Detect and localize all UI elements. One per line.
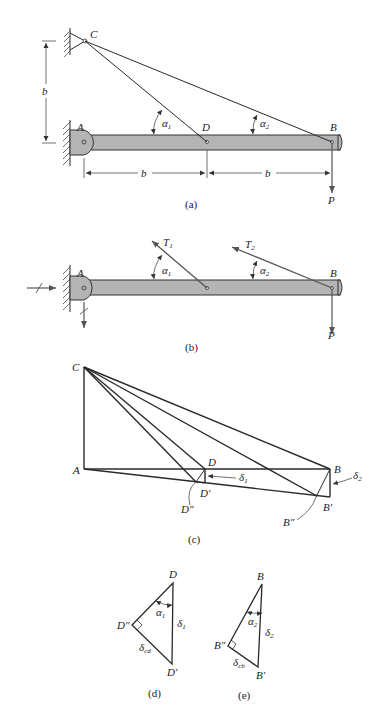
panel-b: T1 T2 α1 α2 A B P (b)	[27, 236, 342, 354]
right-angle-mark	[137, 620, 142, 630]
label-p: P	[327, 329, 335, 341]
dimension-horizontal-b	[84, 150, 330, 178]
line-cb-pp	[84, 367, 317, 496]
caption-e: (e)	[238, 689, 251, 702]
angle-arc-alpha2	[253, 115, 257, 134]
label-d-prime: D′	[166, 666, 178, 678]
angle-arc-alpha1	[154, 110, 162, 134]
wall-support-c	[64, 28, 87, 57]
label-b-double-prime: B″	[283, 516, 295, 528]
truss-diagram: C b	[0, 0, 378, 721]
panel-d: D D″ D′ α1 δ1 δcd (d)	[116, 568, 186, 700]
panel-a: C b	[42, 28, 342, 211]
label-alpha1: α1	[156, 606, 165, 620]
label-b-double-prime: B″	[214, 639, 226, 651]
panel-c: C A D B D′ D″ B′ B″ δ1 δ2 (c)	[72, 361, 362, 546]
angle-arc-alpha2	[253, 261, 257, 279]
label-d-double-prime: D″	[116, 619, 130, 631]
label-delta1: δ1	[177, 617, 186, 631]
label-d: D	[201, 121, 210, 133]
label-alpha2: α2	[260, 117, 270, 131]
label-d: D	[207, 456, 216, 468]
angle-arc-alpha1	[154, 255, 162, 279]
label-p: P	[327, 194, 335, 206]
angle-arc-alpha1	[156, 601, 172, 605]
caption-b: (b)	[185, 341, 198, 354]
line-cb	[84, 367, 330, 469]
caption-a: (a)	[185, 198, 198, 211]
label-b: B	[330, 267, 337, 279]
label-delta2: δ2	[265, 626, 274, 640]
label-b-left: b	[141, 167, 147, 179]
label-t2: T2	[245, 238, 255, 252]
leader-d-double-prime	[189, 482, 196, 505]
label-t1: T1	[163, 236, 173, 250]
label-d-prime: D′	[199, 487, 211, 499]
label-delta2: δ2	[353, 469, 362, 483]
label-b: B	[257, 570, 264, 582]
label-delta-cd: δcd	[139, 641, 151, 655]
label-b-right: b	[265, 167, 271, 179]
label-alpha1: α1	[162, 117, 171, 131]
label-b: B	[330, 121, 337, 133]
label-b: B	[334, 463, 341, 475]
cable-cd	[85, 41, 207, 142]
label-b-vertical: b	[42, 85, 48, 97]
label-alpha2: α2	[260, 264, 270, 278]
angle-arc-alpha2	[247, 612, 262, 613]
leader-b-double-prime	[297, 497, 316, 520]
line-cd	[84, 367, 205, 469]
label-a: A	[72, 464, 80, 476]
label-d-double-prime: D″	[180, 503, 194, 515]
leader-delta2	[333, 478, 352, 484]
caption-c: (c)	[188, 533, 201, 546]
label-delta-cb: δcb	[233, 656, 245, 670]
label-d: D	[168, 568, 177, 580]
wall-support-a	[63, 265, 70, 312]
label-c: C	[90, 28, 98, 40]
panel-e: B B″ B′ α2 δ2 δcb (e)	[214, 570, 274, 702]
label-b-prime: B′	[323, 501, 333, 513]
label-alpha2: α2	[248, 615, 258, 629]
label-c: C	[72, 361, 80, 373]
label-alpha1: α1	[162, 264, 171, 278]
line-cd-pp	[84, 367, 196, 482]
label-a: A	[76, 267, 84, 279]
leader-delta1	[208, 476, 236, 478]
label-delta1: δ1	[239, 471, 248, 485]
label-a: A	[76, 121, 84, 133]
wall-support-a	[63, 120, 70, 166]
label-b-prime: B′	[256, 669, 266, 681]
caption-d: (d)	[148, 687, 161, 700]
beam-ab	[70, 130, 342, 155]
